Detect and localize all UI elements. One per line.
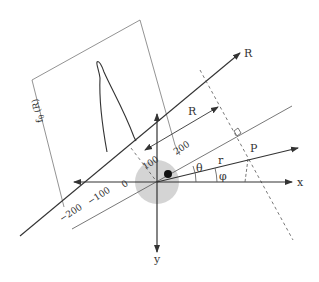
profile-curve — [97, 62, 136, 152]
x-axis-label: x — [297, 176, 304, 189]
svg-text:−200: −200 — [58, 202, 84, 224]
y-axis-label: y — [153, 253, 161, 266]
svg-text:−100: −100 — [86, 185, 112, 207]
phi-label: φ — [219, 170, 227, 183]
dashed-P-drop — [245, 159, 248, 182]
point-P-label: P — [250, 142, 258, 155]
r-label: r — [218, 154, 224, 167]
source-dot — [164, 170, 172, 178]
projection-geometry-diagram: R −200 −100 0 100 200 fθ (R) R x y r P θ… — [0, 0, 319, 282]
svg-text:200: 200 — [172, 139, 192, 157]
dashed-perpendicular-right — [200, 70, 293, 240]
phi-arc — [215, 168, 217, 182]
detector-line — [72, 106, 292, 229]
R-distance-label: R — [188, 105, 197, 118]
R-axis-label: R — [244, 47, 253, 60]
svg-text:0: 0 — [120, 178, 130, 190]
theta-label: θ — [196, 162, 203, 175]
R-axis — [20, 53, 240, 236]
inset-ylabel: fθ (R) — [30, 97, 47, 123]
